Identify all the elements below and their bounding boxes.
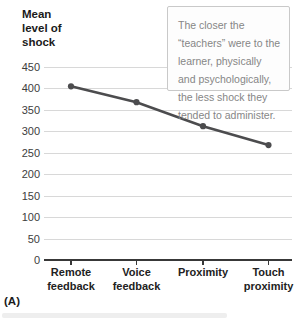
data-point [133,99,139,105]
milgram-shock-chart: Mean level of shock 05010015020025030035… [0,0,299,321]
annotation-box: The closer the “teachers” were to the le… [167,6,290,91]
data-point [265,142,271,148]
data-point [200,123,206,129]
annotation-text: The closer the “teachers” were to the le… [178,19,280,121]
data-point [68,83,74,89]
